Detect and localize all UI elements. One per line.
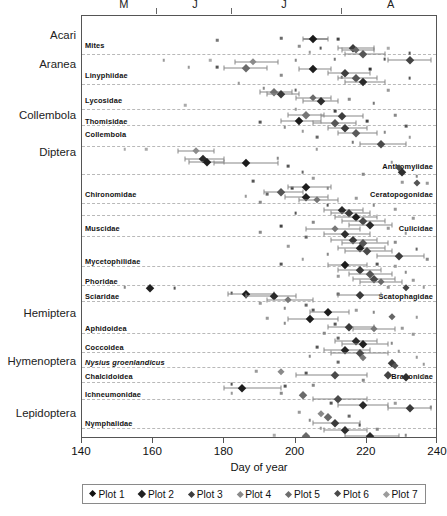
legend-item-plot-1[interactable]: Plot 1 bbox=[90, 489, 124, 500]
data-point bbox=[412, 333, 415, 336]
error-bar-cap bbox=[345, 80, 346, 85]
data-point bbox=[365, 120, 368, 123]
error-bar-cap bbox=[295, 294, 296, 299]
row-label-thomisidae: Thomisidae bbox=[85, 117, 128, 126]
gridline bbox=[82, 109, 436, 110]
error-bar-cap bbox=[260, 90, 261, 95]
error-bar-cap bbox=[263, 190, 264, 195]
data-point-mean bbox=[331, 371, 339, 379]
error-bar-cap bbox=[345, 249, 346, 254]
row-label-nymphalidae: Nymphalidae bbox=[85, 419, 133, 428]
error-bar-cap bbox=[430, 58, 431, 63]
error-bar-cap bbox=[338, 293, 339, 298]
error-bar-cap bbox=[363, 114, 364, 119]
data-point-mean bbox=[366, 221, 374, 229]
error-bar-cap bbox=[288, 317, 289, 322]
x-tick bbox=[436, 438, 437, 443]
data-point bbox=[387, 47, 390, 50]
data-point bbox=[333, 110, 336, 113]
error-bar-cap bbox=[327, 325, 328, 330]
month-label-j-1: J bbox=[192, 0, 198, 10]
plot-area: MitesLinyphiidaeLycosidaeThomisidaeColle… bbox=[81, 15, 437, 438]
data-point bbox=[266, 317, 269, 320]
legend-item-plot-5[interactable]: Plot 5 bbox=[286, 489, 320, 500]
error-bar-cap bbox=[185, 157, 186, 162]
error-bar-cap bbox=[324, 428, 325, 433]
error-bar-cap bbox=[281, 119, 282, 124]
data-point-mean bbox=[324, 413, 332, 421]
error-bar-cap bbox=[302, 190, 303, 195]
data-point-mean bbox=[352, 129, 360, 137]
x-tick-label-200: 200 bbox=[285, 444, 304, 457]
x-axis-title: Day of year bbox=[81, 461, 437, 473]
data-point bbox=[323, 332, 326, 335]
data-point-mean bbox=[338, 112, 346, 120]
legend-diamond-icon bbox=[285, 490, 292, 497]
data-point bbox=[294, 59, 297, 62]
error-bar-cap bbox=[381, 268, 382, 273]
data-point bbox=[405, 232, 408, 235]
error-bar-cap bbox=[324, 348, 325, 353]
x-tick bbox=[223, 438, 224, 443]
data-point bbox=[358, 424, 361, 427]
top-month-axis: MJJA bbox=[81, 0, 437, 15]
data-point bbox=[259, 231, 262, 234]
data-point bbox=[326, 204, 329, 207]
error-bar-cap bbox=[338, 46, 339, 51]
taxon-group-diptera: Diptera bbox=[0, 146, 76, 158]
row-label-nysius-groenlandicus: Nysius groenlandicus bbox=[85, 358, 165, 367]
legend-item-plot-2[interactable]: Plot 2 bbox=[139, 489, 174, 500]
data-point bbox=[405, 271, 408, 274]
data-point bbox=[408, 77, 411, 80]
data-point-mean bbox=[302, 432, 310, 437]
taxon-group-hymenoptera: Hymenoptera bbox=[0, 355, 76, 367]
error-bar-cap bbox=[402, 280, 403, 285]
data-point-mean bbox=[238, 384, 246, 392]
data-point bbox=[319, 47, 322, 50]
month-tick bbox=[231, 8, 232, 14]
data-point bbox=[280, 392, 283, 395]
data-point bbox=[383, 58, 386, 61]
data-point bbox=[237, 82, 240, 85]
error-bar-cap bbox=[377, 131, 378, 136]
data-point bbox=[301, 130, 304, 133]
gridline bbox=[82, 215, 436, 216]
data-point bbox=[188, 66, 191, 69]
data-point bbox=[330, 402, 333, 405]
data-point bbox=[355, 197, 358, 200]
legend-item-plot-6[interactable]: Plot 6 bbox=[335, 489, 369, 500]
data-point bbox=[333, 323, 336, 326]
error-bar-cap bbox=[388, 351, 389, 356]
data-point bbox=[309, 51, 312, 54]
data-point bbox=[401, 181, 404, 184]
data-point-mean bbox=[249, 58, 256, 65]
data-point bbox=[209, 59, 212, 62]
data-point bbox=[351, 141, 354, 144]
data-point bbox=[294, 108, 297, 111]
row-label-chalcidoidea: Chalcidoidea bbox=[85, 372, 133, 381]
data-point bbox=[309, 355, 312, 358]
error-bar-cap bbox=[327, 37, 328, 42]
data-point-mean bbox=[359, 354, 366, 361]
error-bar-cap bbox=[338, 131, 339, 136]
legend-item-plot-3[interactable]: Plot 3 bbox=[189, 489, 223, 500]
data-point bbox=[123, 286, 126, 289]
data-point bbox=[387, 227, 390, 230]
data-point-mean bbox=[309, 65, 317, 73]
row-label-lycosidae: Lycosidae bbox=[85, 96, 122, 105]
error-bar-cap bbox=[331, 185, 332, 190]
month-label-m-0: M bbox=[119, 0, 128, 10]
legend-item-plot-7[interactable]: Plot 7 bbox=[384, 489, 418, 500]
row-label-sciaridae: Sciaridae bbox=[85, 292, 119, 301]
data-point bbox=[412, 279, 415, 282]
error-bar-cap bbox=[313, 298, 314, 303]
gridline bbox=[82, 84, 436, 85]
error-bar-cap bbox=[391, 272, 392, 277]
data-point-mean bbox=[366, 432, 374, 437]
legend-item-plot-4[interactable]: Plot 4 bbox=[238, 489, 272, 500]
data-point bbox=[337, 275, 340, 278]
error-bar-cap bbox=[331, 67, 332, 72]
error-bar-cap bbox=[370, 211, 371, 216]
data-point bbox=[163, 59, 166, 62]
error-bar-cap bbox=[213, 161, 214, 166]
